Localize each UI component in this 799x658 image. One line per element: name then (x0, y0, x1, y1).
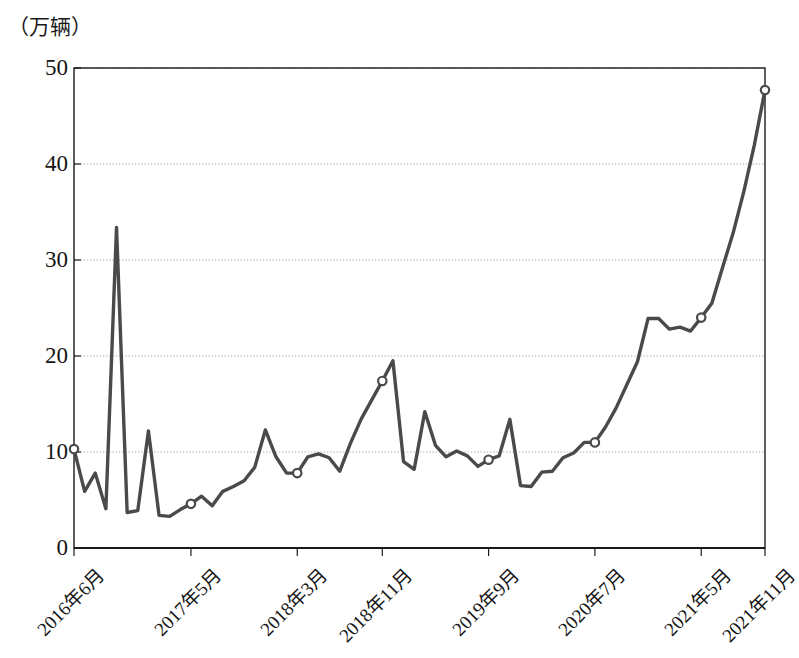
plot-border (74, 68, 765, 548)
y-tick-label: 50 (22, 56, 68, 79)
data-point-marker (293, 469, 301, 477)
y-axis-tick-labels: 01020304050 (16, 0, 68, 658)
data-point-marker (187, 500, 195, 508)
y-tick-label: 0 (22, 536, 68, 559)
data-point-marker (761, 86, 769, 94)
x-axis-ticks (74, 548, 765, 556)
data-point-marker (484, 455, 492, 463)
data-point-marker (591, 438, 599, 446)
data-point-marker (697, 313, 705, 321)
y-tick-label: 40 (22, 152, 68, 175)
gridlines (74, 68, 765, 548)
axis-frame (74, 68, 765, 548)
y-tick-label: 20 (22, 344, 68, 367)
y-tick-label: 30 (22, 248, 68, 271)
data-point-marker (378, 377, 386, 385)
y-tick-label: 10 (22, 440, 68, 463)
data-point-marker (70, 445, 78, 453)
